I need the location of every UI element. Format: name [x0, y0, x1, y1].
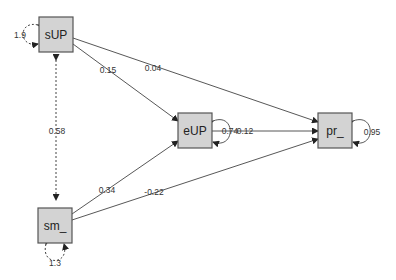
- variance-label: 1.9: [14, 30, 26, 40]
- path-label: 0.15: [100, 65, 117, 75]
- node-sm: sm_: [38, 208, 72, 243]
- path-label: 0.34: [99, 185, 116, 195]
- node-sUP: sUP: [39, 17, 73, 52]
- path-label: 0.12: [237, 126, 254, 136]
- node-eUP: eUP: [178, 113, 212, 148]
- node-label: pr_: [326, 124, 344, 138]
- covariance-label: 0.58: [49, 126, 66, 136]
- node-label: sm_: [44, 219, 67, 233]
- node-label: sUP: [45, 28, 68, 42]
- node-pr: pr_: [318, 113, 352, 148]
- path-sm-pr: [72, 139, 318, 220]
- node-label: eUP: [183, 124, 206, 138]
- path-sUP-pr: [73, 38, 318, 122]
- path-diagram: sUP eUP pr_ sm_ 0.15 0.04 0.12 0.34 -0.2…: [0, 0, 396, 280]
- variance-label: 1.3: [49, 258, 61, 268]
- path-sm-eUP: [72, 141, 178, 214]
- path-label: 0.04: [145, 63, 162, 73]
- variance-label: 0.74: [222, 126, 239, 136]
- variance-label: 0.95: [364, 127, 381, 137]
- path-label: -0.22: [144, 187, 164, 197]
